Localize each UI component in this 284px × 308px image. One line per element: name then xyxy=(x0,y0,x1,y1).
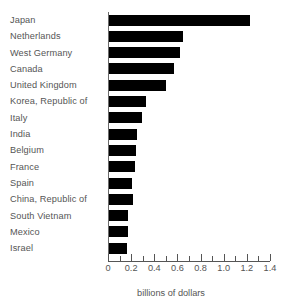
bar xyxy=(108,31,183,42)
x-tick-label: 1.4 xyxy=(264,263,277,273)
bar xyxy=(108,194,133,205)
bar-row xyxy=(108,110,270,126)
category-label: Netherlands xyxy=(0,28,100,44)
category-label: Canada xyxy=(0,61,100,77)
x-tick-major xyxy=(270,254,271,261)
x-tick-label: 0.6 xyxy=(171,263,184,273)
x-tick-major xyxy=(247,254,248,261)
x-tick-label: 0.2 xyxy=(125,263,138,273)
bar xyxy=(108,96,146,107)
bar xyxy=(108,129,137,140)
bar xyxy=(108,15,250,26)
category-label: Spain xyxy=(0,175,100,191)
x-tick-major xyxy=(224,254,225,261)
x-tick-label: 1.0 xyxy=(217,263,230,273)
x-tick-major xyxy=(131,254,132,261)
x-axis-line xyxy=(108,261,270,262)
bar-row xyxy=(108,61,270,77)
x-tick-minor xyxy=(166,256,167,261)
category-label: Israel xyxy=(0,240,100,256)
bar-row xyxy=(108,93,270,109)
category-label: Japan xyxy=(0,12,100,28)
bar-row xyxy=(108,45,270,61)
bar-row xyxy=(108,142,270,158)
x-tick-major xyxy=(177,254,178,261)
category-label: Belgium xyxy=(0,142,100,158)
category-label: West Germany xyxy=(0,45,100,61)
bar-row xyxy=(108,224,270,240)
bar xyxy=(108,145,136,156)
x-tick-minor xyxy=(120,256,121,261)
x-axis-caption: billions of dollars xyxy=(0,288,284,298)
x-tick-label: 0.4 xyxy=(148,263,161,273)
category-label-column: JapanNetherlandsWest GermanyCanadaUnited… xyxy=(0,12,100,256)
x-tick-label: 0.8 xyxy=(194,263,207,273)
bar-row xyxy=(108,126,270,142)
category-label: France xyxy=(0,159,100,175)
bar xyxy=(108,226,128,237)
category-label: South Vietnam xyxy=(0,208,100,224)
bar xyxy=(108,80,166,91)
bar-row xyxy=(108,175,270,191)
x-tick-minor xyxy=(212,256,213,261)
x-tick-minor xyxy=(143,256,144,261)
bar xyxy=(108,63,174,74)
bar xyxy=(108,47,180,58)
x-tick-minor xyxy=(258,256,259,261)
category-label: United Kingdom xyxy=(0,77,100,93)
bar xyxy=(108,178,132,189)
bar-row xyxy=(108,159,270,175)
bar xyxy=(108,243,127,254)
x-tick-label: 1.2 xyxy=(240,263,253,273)
bar-chart: JapanNetherlandsWest GermanyCanadaUnited… xyxy=(0,0,284,308)
category-label: Italy xyxy=(0,110,100,126)
x-tick-major xyxy=(154,254,155,261)
bar xyxy=(108,112,142,123)
x-tick-label: 0 xyxy=(105,263,110,273)
category-label: China, Republic of xyxy=(0,191,100,207)
y-axis-line xyxy=(108,12,109,262)
x-tick-minor xyxy=(189,256,190,261)
bar-row xyxy=(108,191,270,207)
bar xyxy=(108,161,135,172)
category-label: Mexico xyxy=(0,224,100,240)
bar-row xyxy=(108,28,270,44)
bar-row xyxy=(108,12,270,28)
x-tick-major xyxy=(108,254,109,261)
x-tick-minor xyxy=(235,256,236,261)
x-axis-caption-text: billions of dollars xyxy=(137,288,205,298)
bar-row xyxy=(108,208,270,224)
plot-area xyxy=(108,12,270,260)
x-tick-major xyxy=(201,254,202,261)
bar-row xyxy=(108,240,270,256)
bar-row xyxy=(108,77,270,93)
category-label: India xyxy=(0,126,100,142)
bar xyxy=(108,210,128,221)
category-label: Korea, Republic of xyxy=(0,93,100,109)
